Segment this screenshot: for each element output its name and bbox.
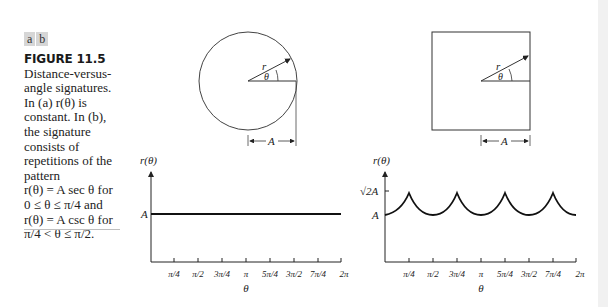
chart-b-xlabel: θ (478, 282, 484, 294)
chart-a: r(θ) A π/4 π/2 3π/4 π 5π/4 3π/2 7π/4 2π … (140, 154, 349, 294)
chart-b-xtick: 3π/4 (448, 269, 466, 279)
chart-a-xtick: 7π/4 (310, 269, 327, 279)
chart-a-xlabel: θ (243, 282, 249, 294)
dimension-label-a: A (267, 135, 275, 147)
angle-label-a: θ (264, 71, 269, 82)
chart-a-xtick: 5π/4 (262, 269, 279, 279)
chart-a-xtick: 3π/4 (213, 269, 231, 279)
chart-b-xtick: π/2 (427, 269, 439, 279)
chart-b-ytick-A: A (371, 209, 379, 221)
chart-b-xtick: 3π/2 (520, 269, 538, 279)
chart-a-xtick: π/2 (192, 269, 204, 279)
figure-canvas: r θ A r θ A r(θ) A π/4 (0, 0, 608, 307)
shape-a-circle: r θ A (199, 32, 297, 147)
dimension-label-b: A (500, 135, 508, 147)
shape-b-square: r θ A (432, 32, 530, 147)
chart-a-xtick: π/4 (168, 269, 180, 279)
angle-label-b: θ (498, 71, 503, 82)
chart-b-xtick: π/4 (403, 269, 415, 279)
chart-b-xtick: π (479, 269, 484, 279)
chart-a-xtick: 3π/2 (285, 269, 303, 279)
chart-a-ylabel: r(θ) (140, 154, 157, 167)
chart-b-ylabel: r(θ) (373, 154, 390, 167)
chart-b-series (385, 193, 576, 215)
chart-b-ytick-sqrt2A: √2A (360, 185, 379, 197)
chart-b-xtick: 7π/4 (545, 269, 562, 279)
chart-a-xtick: π (244, 269, 249, 279)
chart-b-xtick: 5π/4 (497, 269, 514, 279)
chart-a-ytick-A: A (140, 208, 148, 220)
chart-a-xtick: 2π (339, 269, 349, 279)
chart-b-xtick: 2π (575, 269, 585, 279)
chart-b: r(θ) √2A A π/4 π/2 3π/4 π 5π/4 3π/2 7π/4… (360, 154, 585, 294)
